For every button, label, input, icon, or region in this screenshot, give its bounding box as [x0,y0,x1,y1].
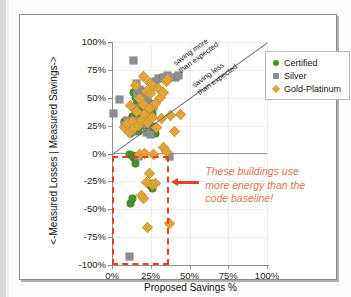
legend-item-certified[interactable]: Certified [271,56,345,69]
x-tick-label: 0% [92,270,132,281]
annotation-line: more energy than the [205,179,305,193]
legend-item-silver[interactable]: Silver [271,69,345,82]
annotation-arrow-line [177,181,199,184]
x-tick-mark [267,265,268,269]
annotation-arrow-head [171,178,178,186]
x-tick-mark [228,265,229,269]
scatter-point-silver [147,131,154,138]
legend-label-silver: Silver [284,71,307,81]
highlight-region-box [112,156,169,265]
legend-marker-square-icon [273,73,279,79]
y-tick-label-text: -25% [58,176,106,186]
y-tick-label-text: -100% [58,260,106,270]
y-tick-mark [108,126,112,127]
scatter-point-silver [116,96,123,103]
y-tick-label-text: -50% [58,204,106,214]
annotation-line: These buildings use [205,165,305,179]
y-tick-label-text: 0% [58,149,106,159]
scatter-point-silver [130,57,137,64]
legend-label-gold-platinum: Gold-Platinum [284,84,341,94]
y-tick-mark [108,70,112,71]
y-tick-label-text: 100% [58,37,106,47]
y-tick-label-text: 75% [58,65,106,75]
scatter-point-silver [110,110,117,117]
y-axis-title: <-Measured Losses | Measured Savings-> [48,41,59,261]
x-tick-label: 75% [208,270,248,281]
legend-item-gold-platinum[interactable]: Gold-Platinum [271,82,345,95]
legend: Certified Silver Gold-Platinum [265,51,350,100]
x-axis-title: Proposed Savings % [112,282,269,293]
y-tick-label-text: 25% [58,121,106,131]
figure-frame: <-Measured Losses | Measured Savings-> P… [19,14,337,280]
x-tick-mark [190,265,191,269]
annotation-text: These buildings usemore energy than thec… [205,165,305,206]
gridline-horizontal [112,70,267,71]
annotation-line: code baseline! [205,192,305,206]
y-tick-label-text: -75% [58,232,106,242]
y-tick-mark [108,98,112,99]
legend-marker-circle-icon [273,60,279,66]
x-tick-label: 50% [170,270,210,281]
legend-label-certified: Certified [284,58,318,68]
y-tick-label-text: 50% [58,93,106,103]
x-tick-label: 25% [131,270,171,281]
y-tick-mark [108,42,112,43]
x-tick-mark [151,265,152,269]
screenshot-canvas: <-Measured Losses | Measured Savings-> P… [0,0,351,297]
x-tick-label: 100% [247,270,287,281]
legend-marker-diamond-icon [272,84,280,92]
left-margin-band-inner [6,0,9,297]
x-tick-mark [112,265,113,269]
x-axis-line [112,265,269,266]
gridline-horizontal [112,42,267,43]
